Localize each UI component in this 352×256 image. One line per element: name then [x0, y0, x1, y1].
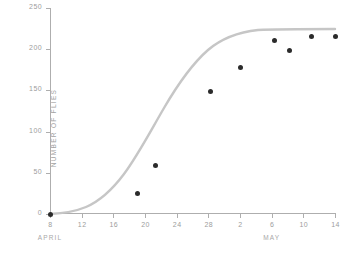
- data-point-marker: [153, 163, 158, 168]
- x-axis-tick-label: 6: [270, 221, 274, 228]
- y-axis-line: [50, 8, 51, 214]
- x-axis-line: [50, 213, 335, 214]
- x-axis-tick-label: 10: [300, 221, 309, 228]
- x-axis-tick: 10: [303, 213, 304, 218]
- y-axis-tick: 200: [46, 49, 51, 50]
- x-axis-tick: 6: [272, 213, 273, 218]
- month-label: MAY: [263, 234, 280, 241]
- x-axis-tick-label: 2: [238, 221, 242, 228]
- data-point-marker: [333, 34, 338, 39]
- x-axis-tick-label: 12: [78, 221, 87, 228]
- data-point-marker: [309, 34, 314, 39]
- data-point-marker: [135, 191, 140, 196]
- y-axis-tick-label: 200: [29, 44, 42, 51]
- x-axis-tick: 28: [208, 213, 209, 218]
- x-axis-tick: 16: [113, 213, 114, 218]
- x-axis-tick-label: 28: [205, 221, 214, 228]
- y-axis-tick: 150: [46, 90, 51, 91]
- y-axis-tick-label: 100: [29, 127, 42, 134]
- data-point-marker: [48, 212, 53, 217]
- x-axis-tick-label: 20: [141, 221, 150, 228]
- x-axis-tick: 20: [145, 213, 146, 218]
- x-axis-tick: 12: [82, 213, 83, 218]
- data-point-marker: [272, 38, 277, 43]
- x-axis-tick: 2: [240, 213, 241, 218]
- x-axis-tick: 14: [335, 213, 336, 218]
- y-axis-tick: 100: [46, 132, 51, 133]
- chart-figure: NUMBER OF FLIES 050100150200250 81216202…: [0, 0, 352, 256]
- y-axis-tick-label: 150: [29, 85, 42, 92]
- y-axis-tick-label: 50: [33, 168, 42, 175]
- x-axis-tick-label: 24: [173, 221, 182, 228]
- y-axis-tick-label: 250: [29, 3, 42, 10]
- x-axis-tick-label: 8: [48, 221, 52, 228]
- y-axis-tick: 250: [46, 8, 51, 9]
- data-point-marker: [287, 48, 292, 53]
- data-point-marker: [238, 65, 243, 70]
- month-label: APRIL: [38, 234, 62, 241]
- y-axis-tick-label: 0: [38, 209, 42, 216]
- x-axis-tick-label: 16: [110, 221, 119, 228]
- plot-area: 050100150200250 81216202428261014: [50, 8, 335, 214]
- x-axis-tick: 24: [177, 213, 178, 218]
- x-axis-tick-label: 14: [331, 221, 340, 228]
- fitted-growth-curve: [50, 8, 335, 214]
- data-point-marker: [208, 89, 213, 94]
- y-axis-tick: 50: [46, 173, 51, 174]
